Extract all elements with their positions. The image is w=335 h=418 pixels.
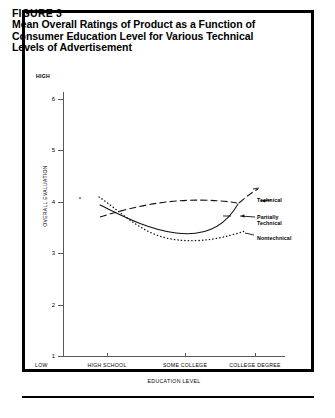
x-axis-title: EDUCATION LEVEL — [63, 378, 285, 384]
legend-item-nontechnical: Nontechnical — [257, 235, 291, 241]
legend-label-partially-line2: Technical — [257, 220, 282, 226]
x-tick-label-high-school: HIGH SCHOOL — [77, 362, 137, 368]
figure-title-block: FIGURE 3 Mean Overall Ratings of Product… — [12, 7, 280, 54]
legend-item-technical: Technical — [257, 197, 282, 203]
figure-page: FIGURE 3 Mean Overall Ratings of Product… — [0, 0, 335, 418]
series-line-technical-tail — [239, 189, 258, 203]
x-tick-label-college-degree: COLLEGE DEGREE — [223, 362, 287, 368]
chart-series-lines — [41, 85, 286, 357]
chart-plot-area: HIGH LOW 6 5 4 3 2 1 HIGH SCHOOL SOME CO… — [41, 85, 286, 357]
legend-item-partially-technical: Partially Technical — [257, 214, 282, 227]
legend-leader-nontechnical — [245, 233, 254, 235]
bottom-divider — [22, 396, 314, 398]
series-line-partially-technical — [100, 204, 238, 234]
page-title: Mean Overall Ratings of Product as a Fun… — [12, 19, 280, 54]
series-line-nontechnical — [99, 197, 245, 241]
legend-label-nontechnical: Nontechnical — [257, 235, 291, 241]
y-axis-high-label: HIGH — [36, 73, 50, 79]
legend-label-technical: Technical — [257, 197, 282, 203]
x-tick-label-some-college: SOME COLLEGE — [155, 362, 215, 368]
x-axis-low-label: LOW — [35, 362, 48, 368]
